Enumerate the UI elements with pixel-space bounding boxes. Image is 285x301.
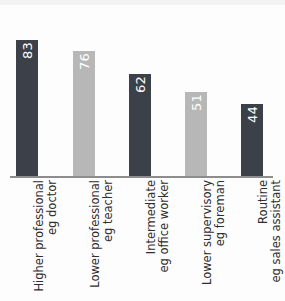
bar-4[interactable]: 44	[241, 104, 263, 176]
category-label-1-line-0: Lower professional	[89, 180, 102, 298]
x-axis-line	[10, 176, 273, 178]
category-label-2-line-0: Intermediate	[145, 180, 158, 298]
category-label-1: Lower professional eg teacher	[89, 180, 114, 298]
category-label-0: Higher professional eg doctor	[33, 180, 58, 298]
bar-value-2: 62	[134, 76, 147, 93]
category-label-0-line-1: eg doctor	[46, 180, 59, 298]
category-labels: Higher professional eg doctor Lower prof…	[0, 180, 285, 301]
category-label-3-line-0: Lower supervisory	[201, 180, 214, 298]
bar-value-0: 83	[21, 42, 34, 59]
category-label-1-line-1: eg teacher	[102, 180, 115, 298]
category-label-2: Intermediate eg office worker	[145, 180, 170, 298]
bar-0[interactable]: 83	[16, 40, 38, 176]
category-label-3: Lower supervisory eg foreman	[201, 180, 226, 298]
category-label-0-line-0: Higher professional	[33, 180, 46, 298]
bar-value-3: 51	[190, 94, 203, 111]
bar-value-1: 76	[78, 53, 91, 70]
bar-value-4: 44	[246, 106, 259, 123]
bar-3[interactable]: 51	[185, 92, 207, 176]
category-label-4-line-1: eg sales assistant	[270, 180, 283, 298]
bar-1[interactable]: 76	[73, 51, 95, 176]
plot-area: 83 76 62 51 44	[0, 0, 285, 180]
bar-2[interactable]: 62	[129, 74, 151, 176]
bar-chart: 83 76 62 51 44 Higher professional eg do…	[0, 0, 285, 301]
category-label-3-line-1: eg foreman	[214, 180, 227, 298]
category-label-4: Routine eg sales assistant	[257, 180, 282, 298]
category-label-4-line-0: Routine	[257, 180, 270, 298]
category-label-2-line-1: eg office worker	[158, 180, 171, 298]
